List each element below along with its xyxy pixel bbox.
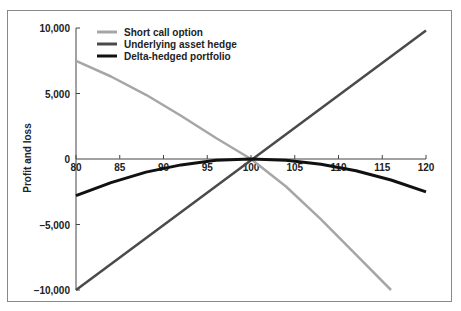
legend: Short call option Underlying asset hedge…: [97, 27, 237, 62]
legend-label-delta-hedged: Delta-hedged portfolio: [124, 51, 231, 62]
y-axis-title: Profit and loss: [22, 123, 33, 193]
x-tick-label: 80: [70, 162, 82, 173]
y-tick-label: –10,000: [34, 285, 71, 296]
x-tick-label: 115: [374, 162, 391, 173]
x-tick-label: 120: [418, 162, 435, 173]
series-lines: [76, 31, 426, 290]
x-tick-label: 85: [114, 162, 126, 173]
legend-label-short-call: Short call option: [124, 27, 203, 38]
line-chart: 10,0005,0000–5,000–10,000808590951001051…: [0, 0, 461, 311]
y-tick-label: 5,000: [45, 89, 70, 100]
y-tick-label: 10,000: [39, 23, 70, 34]
x-tick-label: 105: [286, 162, 303, 173]
legend-label-underlying: Underlying asset hedge: [124, 39, 237, 50]
x-tick-label: 95: [202, 162, 214, 173]
y-tick-label: –5,000: [39, 220, 70, 231]
